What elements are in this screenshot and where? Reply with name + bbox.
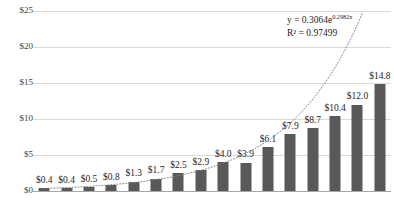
bar-data-label: $0.8 bbox=[103, 173, 120, 183]
bar-slot: $2.9 bbox=[190, 11, 212, 191]
bar-data-label: $14.8 bbox=[369, 72, 390, 82]
bar bbox=[374, 84, 385, 191]
bar-data-label: $6.1 bbox=[260, 135, 277, 145]
bar bbox=[83, 187, 94, 191]
y-axis-tick-label: $10 bbox=[5, 114, 33, 123]
bar-slot: $0.4 bbox=[33, 11, 55, 191]
bar-data-label: $12.0 bbox=[347, 92, 368, 102]
bar bbox=[151, 179, 162, 191]
bar bbox=[128, 182, 139, 191]
bar-data-label: $8.7 bbox=[304, 116, 321, 126]
bar bbox=[285, 134, 296, 191]
y-axis-tick-label: $0 bbox=[5, 186, 33, 195]
bar-slot: $0.5 bbox=[78, 11, 100, 191]
equation-prefix: y = 0.3064e bbox=[287, 15, 332, 25]
bar-data-label: $2.9 bbox=[193, 158, 210, 168]
bar bbox=[240, 163, 251, 191]
r-squared-line: R² = 0.97499 bbox=[287, 27, 352, 40]
bar bbox=[218, 162, 229, 191]
bar-data-label: $0.4 bbox=[36, 176, 53, 186]
bar bbox=[106, 185, 117, 191]
bar-slot: $4.0 bbox=[212, 11, 234, 191]
bar bbox=[352, 105, 363, 191]
bar-slot: $6.1 bbox=[257, 11, 279, 191]
y-axis-tick-label: $5 bbox=[5, 150, 33, 159]
equation-exponent: 0.2982x bbox=[332, 13, 352, 20]
bar bbox=[330, 116, 341, 191]
bar bbox=[262, 147, 273, 191]
y-axis-tick-label: $15 bbox=[5, 78, 33, 87]
bar bbox=[307, 128, 318, 191]
bar-data-label: $0.5 bbox=[81, 175, 98, 185]
bar-data-label: $2.5 bbox=[170, 161, 187, 171]
bar-slot: $3.9 bbox=[234, 11, 256, 191]
gridline bbox=[33, 191, 391, 192]
bar-data-label: $7.9 bbox=[282, 122, 299, 132]
bar-data-label: $1.7 bbox=[148, 166, 165, 176]
bar-slot: $0.4 bbox=[55, 11, 77, 191]
exponential-growth-bar-chart: $0$5$10$15$20$25 $0.4$0.4$0.5$0.8$1.3$1.… bbox=[0, 0, 394, 208]
bar-data-label: $10.4 bbox=[324, 104, 345, 114]
bar-data-label: $0.4 bbox=[58, 176, 75, 186]
bar bbox=[39, 188, 50, 191]
bar-data-label: $1.3 bbox=[125, 169, 142, 179]
bar bbox=[61, 188, 72, 191]
bar-slot: $2.5 bbox=[167, 11, 189, 191]
bar-slot: $14.8 bbox=[369, 11, 391, 191]
equation-line: y = 0.3064e0.2982x bbox=[287, 14, 352, 27]
bar-slot: $1.3 bbox=[123, 11, 145, 191]
bar bbox=[195, 170, 206, 191]
y-axis-tick-label: $25 bbox=[5, 6, 33, 15]
bar-data-label: $3.9 bbox=[237, 150, 254, 160]
bar-slot: $0.8 bbox=[100, 11, 122, 191]
bar-slot: $1.7 bbox=[145, 11, 167, 191]
bar bbox=[173, 173, 184, 191]
bar-data-label: $4.0 bbox=[215, 150, 232, 160]
trendline-equation-annotation: y = 0.3064e0.2982x R² = 0.97499 bbox=[287, 14, 352, 40]
y-axis-tick-label: $20 bbox=[5, 42, 33, 51]
